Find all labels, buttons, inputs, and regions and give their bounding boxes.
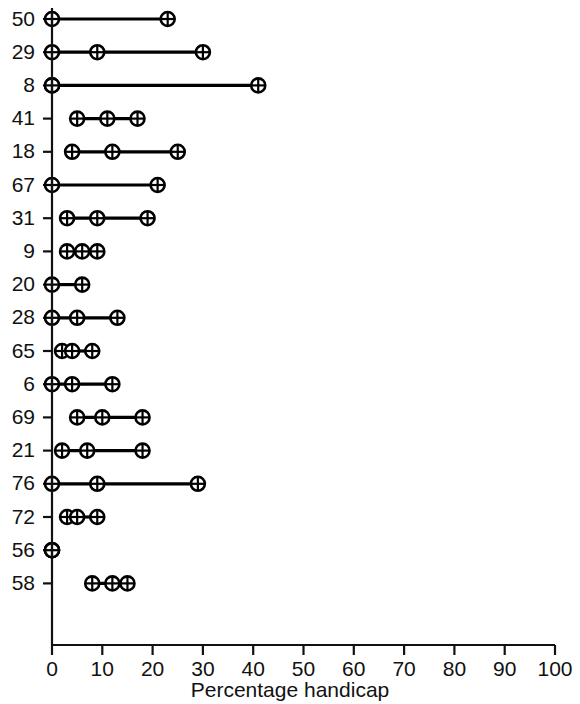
y-axis-label: 72 <box>12 505 35 528</box>
series-row <box>85 576 134 590</box>
series-row <box>55 444 149 458</box>
data-point-marker <box>75 244 89 258</box>
x-axis-tick-label: 20 <box>141 657 164 680</box>
data-point-marker <box>191 477 205 491</box>
data-point-marker <box>65 344 79 358</box>
series-row <box>70 410 149 424</box>
data-point-marker <box>100 112 114 126</box>
data-point-marker <box>70 311 84 325</box>
y-axis-label: 31 <box>12 206 35 229</box>
data-point-marker <box>90 211 104 225</box>
series-row <box>45 78 265 92</box>
data-point-marker <box>131 112 145 126</box>
series-row <box>60 244 104 258</box>
data-point-marker <box>171 145 185 159</box>
data-point-marker <box>80 444 94 458</box>
data-point-marker <box>85 344 99 358</box>
data-point-marker <box>105 377 119 391</box>
x-axis-tick-label: 80 <box>443 657 466 680</box>
y-axis-label: 21 <box>12 438 35 461</box>
x-axis-tick-label: 50 <box>292 657 315 680</box>
x-axis-tick-label: 10 <box>91 657 114 680</box>
data-point-marker <box>136 410 150 424</box>
data-point-marker <box>105 576 119 590</box>
dot-plot-svg: 502984118673192028656692176725658 010203… <box>0 0 580 704</box>
series-row <box>45 377 119 391</box>
series-row <box>70 112 144 126</box>
series-row <box>65 145 185 159</box>
data-point-marker <box>90 45 104 59</box>
data-point-marker <box>65 145 79 159</box>
y-axis-label: 18 <box>12 139 35 162</box>
series-group <box>45 12 265 590</box>
data-point-marker <box>151 178 165 192</box>
series-row <box>60 211 154 225</box>
data-point-marker <box>95 410 109 424</box>
y-axis-label: 6 <box>23 372 35 395</box>
chart-container: 502984118673192028656692176725658 010203… <box>0 0 580 704</box>
data-point-marker <box>196 45 210 59</box>
series-row <box>45 45 210 59</box>
y-axis-label: 67 <box>12 173 35 196</box>
y-axis-label: 29 <box>12 40 35 63</box>
y-axis-label: 56 <box>12 538 35 561</box>
series-row <box>45 477 205 491</box>
y-axis-label: 76 <box>12 471 35 494</box>
y-axis-labels-group: 502984118673192028656692176725658 <box>12 7 35 594</box>
y-axis-label: 20 <box>12 272 35 295</box>
data-point-marker <box>90 477 104 491</box>
series-row <box>45 12 175 26</box>
data-point-marker <box>105 145 119 159</box>
series-row <box>45 178 165 192</box>
y-axis-ticks-group <box>43 19 52 583</box>
y-axis-label: 8 <box>23 73 35 96</box>
series-row <box>55 344 99 358</box>
y-axis-label: 69 <box>12 405 35 428</box>
x-axis-tick-label: 70 <box>392 657 415 680</box>
y-axis-label: 41 <box>12 106 35 129</box>
data-point-marker <box>120 576 134 590</box>
data-point-marker <box>110 311 124 325</box>
x-axis-tick-label: 60 <box>342 657 365 680</box>
y-axis-label: 50 <box>12 7 35 30</box>
data-point-marker <box>55 444 69 458</box>
data-point-marker <box>161 12 175 26</box>
data-point-marker <box>60 211 74 225</box>
data-point-marker <box>90 510 104 524</box>
x-axis-tick-label: 0 <box>46 657 58 680</box>
data-point-marker <box>60 244 74 258</box>
data-point-marker <box>70 510 84 524</box>
data-point-marker <box>85 576 99 590</box>
x-axis-tick-label: 40 <box>242 657 265 680</box>
data-point-marker <box>90 244 104 258</box>
y-axis-label: 58 <box>12 571 35 594</box>
series-row <box>60 510 104 524</box>
x-axis-title: Percentage handicap <box>191 678 390 701</box>
data-point-marker <box>75 278 89 292</box>
data-point-marker <box>136 444 150 458</box>
x-axis-ticks-group <box>52 645 555 655</box>
y-axis-label: 65 <box>12 339 35 362</box>
x-axis-tick-label: 100 <box>537 657 572 680</box>
y-axis-label: 28 <box>12 305 35 328</box>
data-point-marker <box>70 410 84 424</box>
series-row <box>45 311 124 325</box>
x-axis-tick-labels-group: 0102030405060708090100 <box>46 657 572 680</box>
data-point-marker <box>251 78 265 92</box>
x-axis-tick-label: 90 <box>493 657 516 680</box>
y-axis-label: 9 <box>23 239 35 262</box>
data-point-marker <box>70 112 84 126</box>
data-point-marker <box>65 377 79 391</box>
x-axis-tick-label: 30 <box>191 657 214 680</box>
data-point-marker <box>141 211 155 225</box>
